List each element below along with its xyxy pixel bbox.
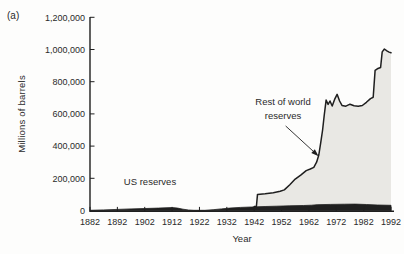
x-axis-title: Year [232, 233, 251, 244]
x-tick-label: 1972 [326, 217, 346, 227]
y-tick-label: 400,000 [52, 141, 85, 151]
x-tick-label: 1882 [80, 217, 100, 227]
y-tick-label: 1,000,000 [45, 45, 85, 55]
y-tick-label: 600,000 [52, 109, 85, 119]
x-tick-label: 1892 [107, 217, 127, 227]
y-tick-label: 1,200,000 [45, 13, 85, 23]
rest-of-world-annotation-line2: reserves [255, 109, 310, 123]
x-tick-label: 1952 [272, 217, 292, 227]
y-tick-label: 200,000 [52, 174, 85, 184]
us-reserves-annotation: US reserves [124, 176, 176, 187]
x-tick-label: 1912 [162, 217, 182, 227]
rest-of-world-annotation-line1: Rest of world [255, 95, 310, 109]
y-axis-title: Millions of barrels [16, 75, 27, 153]
x-tick-label: 1982 [354, 217, 374, 227]
y-tick-label: 800,000 [52, 77, 85, 87]
us-reserves-area [90, 204, 391, 210]
rest-of-world-annotation: Rest of world reserves [255, 95, 310, 123]
annotation-arrow-line [286, 126, 313, 151]
reserves-area-chart: 0200,000400,000600,000800,0001,000,0001,… [0, 0, 404, 254]
x-tick-label: 1922 [189, 217, 209, 227]
x-tick-label: 1992 [381, 217, 401, 227]
panel-label: (a) [7, 10, 19, 21]
x-tick-label: 1962 [299, 217, 319, 227]
x-tick-label: 1942 [244, 217, 264, 227]
y-tick-label: 0 [80, 206, 85, 216]
x-tick-label: 1932 [217, 217, 237, 227]
x-tick-label: 1902 [135, 217, 155, 227]
figure-panel: 0200,000400,000600,000800,0001,000,0001,… [0, 0, 404, 254]
